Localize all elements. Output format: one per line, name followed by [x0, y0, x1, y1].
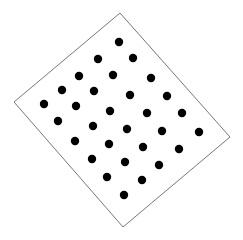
dot [88, 155, 96, 163]
dot [58, 86, 66, 94]
dot [138, 176, 146, 184]
dot [147, 74, 155, 82]
dot [103, 173, 111, 181]
dot [158, 127, 166, 135]
dot [126, 91, 134, 99]
dot [54, 117, 62, 125]
dot [120, 191, 128, 199]
dot [40, 100, 48, 108]
dot [139, 143, 147, 151]
dot [89, 122, 97, 130]
diagram-canvas [0, 0, 243, 240]
dot [94, 55, 102, 63]
dot [115, 38, 123, 46]
dot-grid [40, 38, 203, 199]
dot [75, 72, 83, 80]
dot [163, 92, 171, 100]
dot [72, 102, 80, 110]
dot [90, 87, 98, 95]
dot [178, 109, 186, 117]
dot [143, 109, 151, 117]
dot [123, 125, 131, 133]
dot [129, 54, 137, 62]
dot [71, 137, 79, 145]
dot [121, 158, 129, 166]
dot [195, 128, 203, 136]
dot [105, 140, 113, 148]
dot [106, 107, 114, 115]
dot [175, 145, 183, 153]
dot [109, 71, 117, 79]
dot [155, 161, 163, 169]
